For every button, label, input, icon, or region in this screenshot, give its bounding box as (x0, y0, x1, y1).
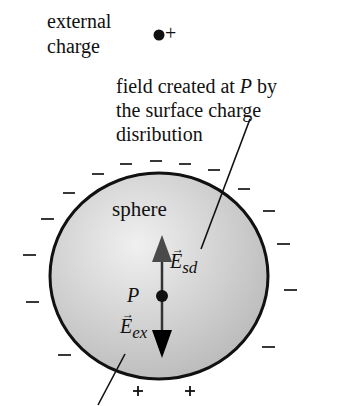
e-sd-label: → Esd (170, 250, 197, 274)
external-charge-dot (154, 30, 165, 41)
point-p-dot (156, 290, 168, 302)
field-label-line1: field created at P by (116, 75, 277, 97)
field-label-line2: the surface charge (116, 99, 261, 121)
vector-arrow-icon: → (122, 303, 134, 325)
positive-charges (133, 386, 195, 396)
sphere-label: sphere (112, 198, 167, 220)
diagram-canvas (0, 0, 338, 406)
vector-arrow-icon: → (172, 238, 184, 260)
e-ex-label: → Eex (120, 315, 147, 339)
external-charge-label-line1: external (47, 10, 111, 32)
external-charge-label-line2: charge (47, 35, 100, 57)
external-charge-sign: + (165, 22, 176, 44)
field-label-line3: disribution (116, 123, 203, 145)
